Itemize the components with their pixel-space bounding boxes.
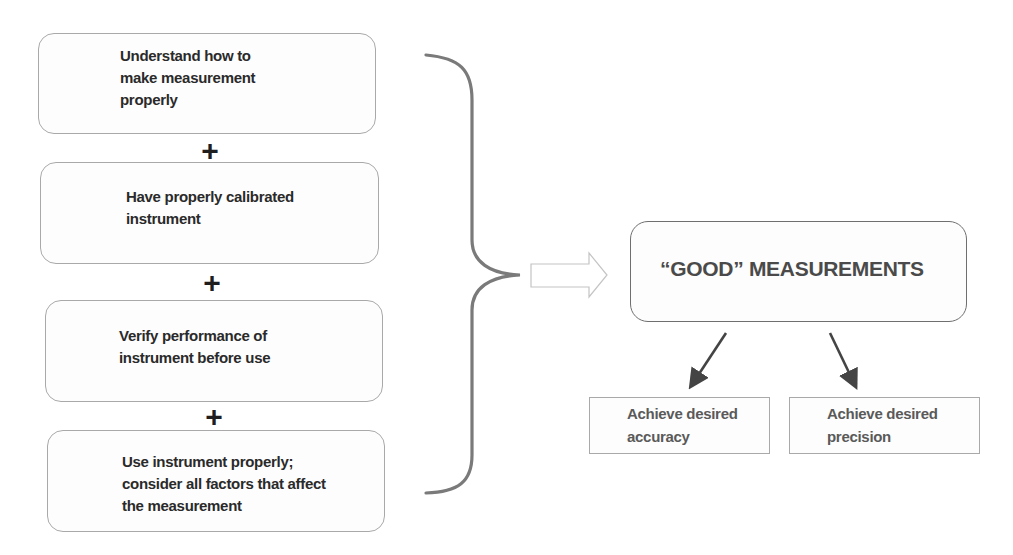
hollow-right-arrow-icon <box>531 253 607 297</box>
curly-brace-icon <box>426 55 520 493</box>
accuracy-line-1: Achieve desired <box>627 402 738 425</box>
accuracy-line-2: accuracy <box>627 425 738 448</box>
arrow-to-precision-icon <box>830 333 854 383</box>
precision-line-1: Achieve desired <box>827 402 938 425</box>
arrow-to-accuracy-icon <box>693 333 726 383</box>
good-measurements-title: “GOOD” MEASUREMENTS <box>660 257 924 281</box>
precision-line-2: precision <box>827 425 938 448</box>
precision-text: Achieve desired precision <box>827 402 938 448</box>
accuracy-text: Achieve desired accuracy <box>627 402 738 448</box>
